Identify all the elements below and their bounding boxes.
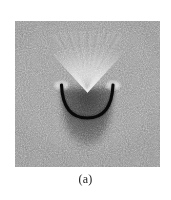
figure-container: (a) — [0, 0, 171, 200]
figure-caption: (a) — [0, 172, 171, 186]
speckle-grain-layer — [15, 21, 160, 167]
speckle-interferogram-panel — [15, 21, 160, 167]
panel-graphic — [15, 21, 160, 167]
